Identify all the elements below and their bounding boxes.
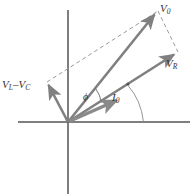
phasor-diagram-figure: V0 VR VL–VC ϕ I0 — [0, 0, 194, 196]
dashed-construction-lines — [47, 11, 178, 82]
label-vl-minus-vc: VL–VC — [2, 79, 30, 91]
label-phi: ϕ — [83, 92, 88, 102]
label-vc-subscript: C — [25, 83, 30, 92]
label-v0: V0 — [160, 3, 170, 15]
label-v0-subscript: 0 — [167, 7, 171, 16]
label-vr: VR — [166, 58, 177, 70]
angle-vertex-dot — [126, 82, 129, 85]
label-i0-subscript: 0 — [116, 96, 120, 105]
phi-angle-arc — [96, 88, 102, 102]
label-vr-symbol: V — [166, 57, 173, 69]
label-vl-symbol: V — [2, 78, 9, 90]
label-i0: I0 — [112, 92, 119, 104]
vector-v0 — [68, 15, 155, 123]
label-vr-subscript: R — [173, 62, 178, 71]
phasor-diagram-canvas — [0, 0, 194, 196]
angle-arcs-group — [96, 86, 144, 123]
i0-angle-arc — [128, 86, 144, 123]
dashed-line-vlvc-to-v0 — [47, 11, 158, 82]
axes-group — [18, 10, 190, 194]
label-v0-symbol: V — [160, 2, 167, 14]
dashed-line-v0-to-vr — [158, 11, 178, 52]
vector-vl-minus-vc — [49, 85, 69, 122]
vector-vr — [68, 55, 174, 123]
